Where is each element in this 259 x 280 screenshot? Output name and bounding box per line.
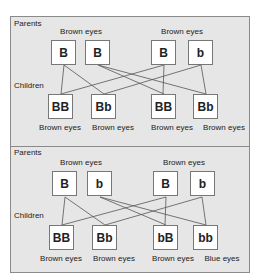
child-phenotype-label: Brown eyes: [144, 123, 200, 132]
child-phenotype-label: Brown eyes: [33, 254, 89, 263]
parent-allele-box: B: [151, 40, 176, 65]
parent-allele-box: b: [188, 40, 213, 65]
parent-allele-box: b: [87, 171, 112, 196]
parent-group-label: Brown eyes: [144, 158, 224, 167]
parent-allele-box: B: [52, 171, 77, 196]
child-phenotype-label: Brown eyes: [85, 123, 141, 132]
child-genotype-box: Bb: [92, 225, 117, 250]
child-genotype-box: BB: [48, 94, 73, 119]
parent-group-label: Brown eyes: [41, 158, 121, 167]
parent-allele-box: b: [190, 171, 215, 196]
child-phenotype-label: Brown eyes: [32, 123, 88, 132]
child-genotype-box: Bb: [193, 94, 218, 119]
parent-group-label: Brown eyes: [142, 27, 222, 36]
panel-bb-x-bb-heterozygous: Parents Brown eyes Brown eyes B b B b Ch…: [11, 147, 249, 273]
child-genotype-box: Bb: [91, 94, 116, 119]
parent-allele-box: B: [51, 40, 76, 65]
parents-label: Parents: [14, 148, 42, 157]
children-label: Children: [14, 211, 44, 220]
child-genotype-box: BB: [49, 225, 74, 250]
child-genotype-box: bb: [193, 225, 218, 250]
child-phenotype-label: Blue eyes: [194, 254, 250, 263]
child-phenotype-label: Brown eyes: [145, 254, 201, 263]
parent-allele-box: B: [85, 40, 110, 65]
child-phenotype-label: Brown eyes: [86, 254, 142, 263]
child-phenotype-label: Brown eyes: [196, 123, 252, 132]
parent-allele-box: B: [153, 171, 178, 196]
parents-label: Parents: [14, 19, 42, 28]
parent-group-label: Brown eyes: [41, 27, 121, 36]
child-genotype-box: BB: [151, 94, 176, 119]
panel-bb-x-bb: Parents Brown eyes Brown eyes B B B b Ch…: [11, 17, 249, 147]
child-genotype-box: bB: [153, 225, 178, 250]
inheritance-diagram: Parents Brown eyes Brown eyes B B B b Ch…: [10, 16, 250, 273]
children-label: Children: [14, 81, 44, 90]
